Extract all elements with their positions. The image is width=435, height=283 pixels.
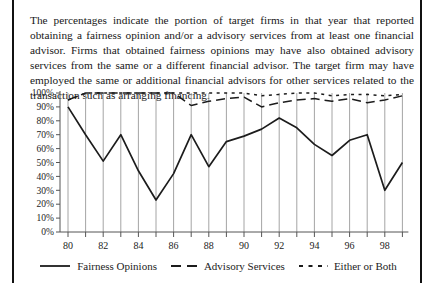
x-tick-label: 94: [309, 240, 319, 251]
y-tick-label: 20%: [37, 199, 55, 209]
legend-item-fairness-opinions: Fairness Opinions: [39, 260, 157, 272]
x-tick-label: 80: [63, 240, 73, 251]
x-tick-label: 96: [345, 240, 355, 251]
chart-legend: Fairness Opinions Advisory Services Eith…: [22, 260, 414, 272]
x-tick-label: 82: [98, 240, 108, 251]
y-tick-label: 40%: [37, 172, 55, 182]
x-tick-label: 92: [274, 240, 284, 251]
y-tick-label: 90%: [37, 102, 55, 112]
legend-label: Advisory Services: [204, 260, 285, 272]
legend-label: Fairness Opinions: [77, 260, 157, 272]
series-fairness-opinions: [68, 107, 402, 200]
figure-border-left: [12, 0, 14, 283]
legend-item-advisory-services: Advisory Services: [170, 260, 285, 272]
y-tick-label: 30%: [37, 186, 55, 196]
x-tick-label: 84: [133, 240, 143, 251]
y-tick-label: 50%: [37, 158, 55, 168]
y-tick-label: 60%: [37, 144, 55, 154]
x-tick-label: 90: [239, 240, 249, 251]
y-tick-label: 10%: [37, 213, 55, 223]
y-tick-label: 0%: [41, 227, 54, 237]
solid-line-icon: [39, 262, 71, 270]
x-tick-label: 86: [169, 240, 179, 251]
series-either-or-both: [68, 93, 402, 100]
legend-item-either-or-both: Either or Both: [298, 260, 397, 272]
y-tick-label: 100%: [32, 88, 54, 98]
short-dash-line-icon: [298, 262, 328, 270]
y-tick-label: 80%: [37, 116, 55, 126]
line-chart: 0%10%20%30%40%50%60%70%80%90%100%8082848…: [18, 86, 414, 260]
chart-canvas: 0%10%20%30%40%50%60%70%80%90%100%8082848…: [18, 86, 414, 260]
x-tick-label: 88: [204, 240, 214, 251]
legend-label: Either or Both: [334, 260, 397, 272]
figure-border-right: [420, 0, 422, 283]
x-tick-label: 98: [380, 240, 390, 251]
long-dash-line-icon: [170, 262, 198, 270]
y-tick-label: 70%: [37, 130, 55, 140]
